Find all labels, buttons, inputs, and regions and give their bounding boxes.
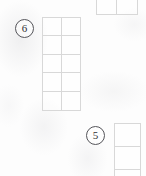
grid-cell[interactable] xyxy=(42,17,62,37)
grid-cell[interactable] xyxy=(61,35,81,55)
grid-cell[interactable] xyxy=(42,91,62,111)
worksheet-canvas: 6 5 xyxy=(0,0,146,176)
main-grid[interactable] xyxy=(42,17,80,110)
grid-cell[interactable] xyxy=(61,17,81,37)
badge-label-5: 5 xyxy=(86,126,105,145)
grid-cell[interactable] xyxy=(96,0,118,15)
grid-cell[interactable] xyxy=(42,72,62,92)
top-partial-grid[interactable] xyxy=(96,0,137,14)
grid-cell[interactable] xyxy=(114,169,141,176)
bottom-partial-grid[interactable] xyxy=(114,123,140,176)
grid-cell[interactable] xyxy=(116,0,138,15)
grid-cell[interactable] xyxy=(61,72,81,92)
grid-cell[interactable] xyxy=(114,123,141,147)
grid-cell[interactable] xyxy=(42,35,62,55)
badge-label-6: 6 xyxy=(15,19,34,38)
grid-cell[interactable] xyxy=(114,146,141,170)
grid-cell[interactable] xyxy=(42,54,62,74)
grid-cell[interactable] xyxy=(61,91,81,111)
grid-cell[interactable] xyxy=(61,54,81,74)
